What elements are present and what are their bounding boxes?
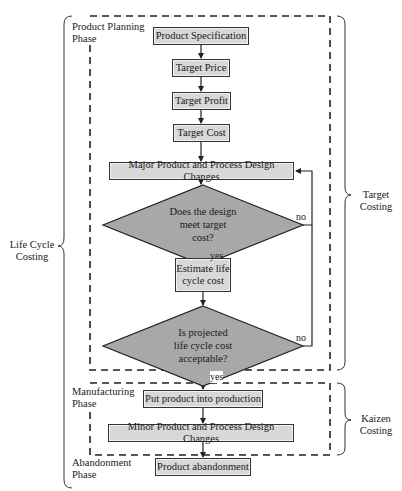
node-estimate-life-cycle-cost: Estimate life cycle cost (175, 258, 231, 292)
decision2-line1: Is projected (153, 326, 253, 339)
node-target-price: Target Price (172, 59, 230, 77)
kaizen-costing-label-line2: Costing (354, 425, 398, 437)
abandonment-phase-line2: Phase (72, 469, 132, 481)
life-cycle-brace (58, 16, 72, 488)
decision2-no-label: no (296, 332, 306, 344)
abandonment-phase-line1: Abandonment (72, 457, 132, 469)
kaizen-costing-brace (337, 383, 351, 455)
node-product-specification: Product Specification (153, 27, 249, 45)
decision1-line2: meet target (153, 218, 253, 231)
kaizen-costing-label-line1: Kaizen (354, 413, 398, 425)
decision1-yes-label: yes (210, 250, 223, 262)
node-target-profit: Target Profit (172, 92, 231, 110)
node-minor-design-changes: Minor Product and Process Design Changes (108, 424, 294, 442)
life-cycle-costing-label: Life Cycle Costing (6, 239, 58, 263)
decision1-line1: Does the design (153, 205, 253, 218)
life-cycle-label-line2: Costing (6, 251, 58, 263)
target-costing-label-line1: Target (354, 189, 398, 201)
decision2-line2: life cycle cost (153, 339, 253, 352)
life-cycle-label-line1: Life Cycle (6, 239, 58, 251)
manufacturing-phase-line1: Manufacturing (72, 386, 134, 398)
decision1-no-label: no (296, 211, 306, 223)
decision1-text: Does the design meet target cost? (153, 205, 253, 244)
planning-phase-line1: Product Planning (72, 21, 145, 33)
target-costing-brace (337, 16, 351, 370)
manufacturing-phase-label: Manufacturing Phase (72, 386, 136, 410)
decision2-line3: acceptable? (153, 352, 253, 365)
kaizen-costing-label: Kaizen Costing (354, 413, 398, 437)
planning-phase-label: Product Planning Phase (72, 21, 147, 45)
decision1-line3: cost? (153, 231, 253, 244)
manufacturing-phase-line2: Phase (72, 398, 134, 410)
planning-phase-line2: Phase (72, 33, 145, 45)
decision2-text: Is projected life cycle cost acceptable? (153, 326, 253, 365)
decision2-yes-label: yes (210, 371, 223, 383)
node-major-design-changes: Major Product and Process Design Changes (109, 162, 294, 180)
estimate-line2: cycle cost (182, 275, 224, 287)
target-costing-label-line2: Costing (354, 201, 398, 213)
node-product-abandonment: Product abandonment (155, 458, 251, 476)
estimate-line1: Estimate life (176, 263, 229, 275)
abandonment-phase-label: Abandonment Phase (72, 457, 134, 481)
target-costing-label: Target Costing (354, 189, 398, 213)
node-put-into-production: Put product into production (143, 390, 263, 408)
node-target-cost: Target Cost (173, 124, 230, 142)
